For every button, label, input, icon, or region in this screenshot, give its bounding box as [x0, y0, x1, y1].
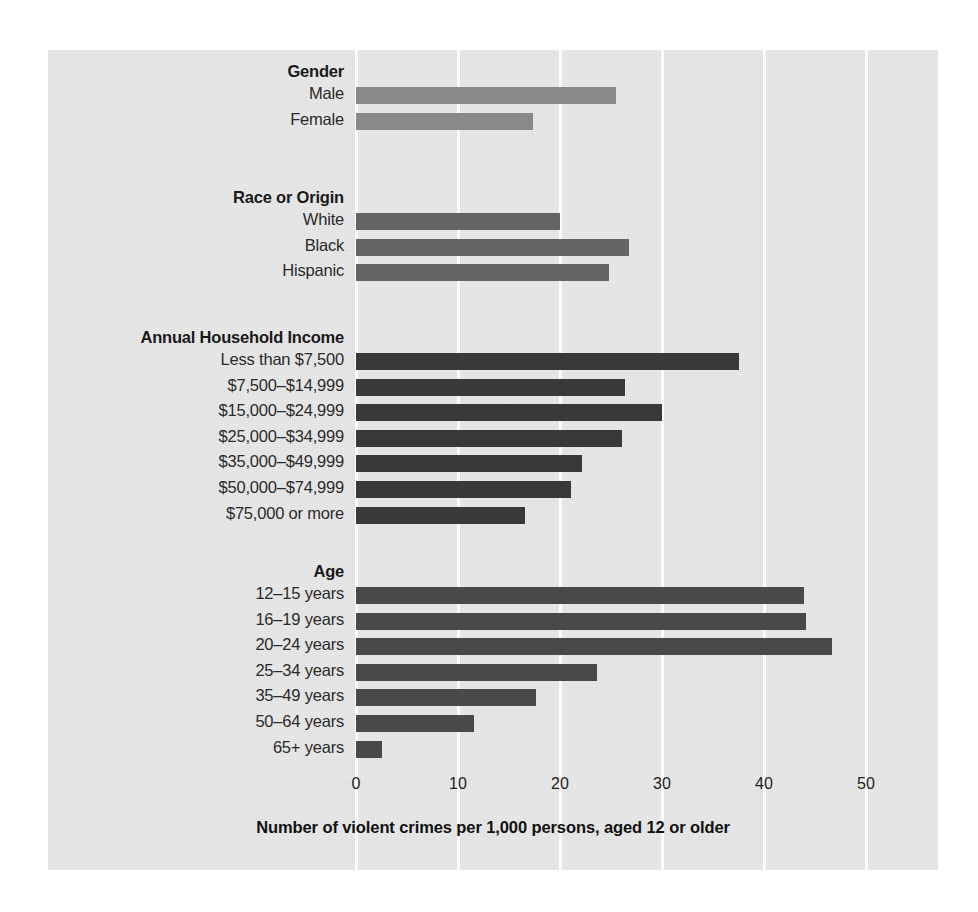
bar-label-income-5: $50,000–$74,999	[48, 478, 344, 497]
bar-age-2	[356, 638, 832, 655]
bar-income-4	[356, 455, 582, 472]
bar-income-5	[356, 481, 571, 498]
bar-label-age-5: 50–64 years	[48, 712, 344, 731]
bar-label-race-2: Hispanic	[48, 261, 344, 280]
bar-income-6	[356, 507, 525, 524]
bar-income-3	[356, 430, 622, 447]
x-tick-40: 40	[744, 775, 784, 793]
bar-income-2	[356, 404, 662, 421]
bar-gender-1	[356, 113, 533, 130]
bar-label-age-1: 16–19 years	[48, 610, 344, 629]
group-heading-gender: Gender	[48, 62, 344, 81]
bar-age-3	[356, 664, 597, 681]
x-tick-50: 50	[846, 775, 886, 793]
bar-age-5	[356, 715, 474, 732]
bar-race-1	[356, 239, 629, 256]
bar-income-1	[356, 379, 625, 396]
bar-age-4	[356, 689, 536, 706]
bar-label-age-4: 35–49 years	[48, 686, 344, 705]
group-heading-age: Age	[48, 562, 344, 581]
bar-income-0	[356, 353, 739, 370]
bar-label-gender-0: Male	[48, 84, 344, 103]
bar-label-age-6: 65+ years	[48, 738, 344, 757]
bar-age-1	[356, 613, 806, 630]
bar-age-0	[356, 587, 804, 604]
group-heading-income: Annual Household Income	[48, 328, 344, 347]
x-tick-0: 0	[336, 775, 376, 793]
bar-label-income-1: $7,500–$14,999	[48, 376, 344, 395]
bar-rows: GenderMaleFemaleRace or OriginWhiteBlack…	[48, 50, 938, 870]
bar-label-income-2: $15,000–$24,999	[48, 401, 344, 420]
bar-gender-0	[356, 87, 616, 104]
bar-label-age-0: 12–15 years	[48, 584, 344, 603]
bar-label-income-4: $35,000–$49,999	[48, 452, 344, 471]
bar-label-race-1: Black	[48, 236, 344, 255]
x-tick-10: 10	[438, 775, 478, 793]
bar-label-gender-1: Female	[48, 110, 344, 129]
bar-race-2	[356, 264, 609, 281]
bar-label-income-6: $75,000 or more	[48, 504, 344, 523]
bar-race-0	[356, 213, 560, 230]
x-axis-title: Number of violent crimes per 1,000 perso…	[48, 818, 938, 837]
bar-label-income-3: $25,000–$34,999	[48, 427, 344, 446]
bar-label-age-2: 20–24 years	[48, 635, 344, 654]
x-tick-30: 30	[642, 775, 682, 793]
bar-label-age-3: 25–34 years	[48, 661, 344, 680]
x-tick-20: 20	[540, 775, 580, 793]
bar-label-income-0: Less than $7,500	[48, 350, 344, 369]
bar-age-6	[356, 741, 382, 758]
bar-label-race-0: White	[48, 210, 344, 229]
chart-panel: GenderMaleFemaleRace or OriginWhiteBlack…	[48, 50, 938, 870]
group-heading-race: Race or Origin	[48, 188, 344, 207]
